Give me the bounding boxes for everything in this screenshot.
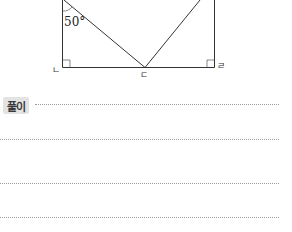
answer-line-3[interactable] [0,183,279,184]
solution-label: 풀이 [3,97,29,114]
figure-drawing [0,0,292,80]
angle-50-label: 50° [64,16,85,28]
vertex-label-nieun: ㄴ [52,66,60,75]
answer-line-1[interactable] [35,104,279,105]
answer-line-2[interactable] [0,139,279,140]
geometry-figure: 50° ㄴ ㄷ ㄹ [0,0,292,80]
vertex-label-digeut: ㄷ [140,71,148,80]
vertex-label-rieul: ㄹ [217,62,225,71]
answer-line-4[interactable] [0,217,279,218]
